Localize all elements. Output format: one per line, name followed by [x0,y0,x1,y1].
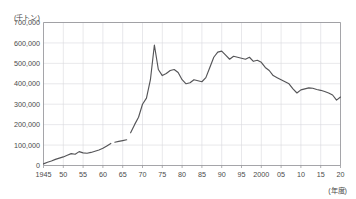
x-axis-tick-labels: 194550556065707580859095200005101520 [36,170,345,179]
y-tick-label: 400,000 [14,79,40,88]
y-tick-label: 200,000 [14,120,40,129]
y-tick-label: 100,000 [14,141,40,150]
y-tick-label: 500,000 [14,59,40,68]
x-tick-label: 85 [198,170,206,179]
x-tick-label: 75 [158,170,166,179]
gridlines [44,23,341,166]
x-tick-label: 1945 [36,170,52,179]
x-axis-unit-label: (年度) [328,186,347,195]
x-tick-label: 2000 [253,170,269,179]
x-tick-label: 70 [139,170,147,179]
chart-container: (千トン) 0100,000200,000300,000400,000500,0… [0,0,356,199]
y-tick-label: 300,000 [14,100,40,109]
chart-plot-svg: 0100,000200,000300,000400,000500,000600,… [0,0,356,199]
x-tick-label: 20 [337,170,345,179]
data-line-segment-1 [44,143,111,163]
y-tick-label: 700,000 [14,18,40,27]
plot-border [44,23,341,166]
x-tick-label: 05 [277,170,285,179]
x-tick-label: 10 [297,170,305,179]
x-tick-label: 65 [119,170,127,179]
x-tick-label: 95 [238,170,246,179]
y-tick-label: 600,000 [14,39,40,48]
x-tick-label: 80 [178,170,186,179]
x-tick-label: 90 [218,170,226,179]
x-tick-label: 55 [79,170,87,179]
x-tick-label: 15 [317,170,325,179]
y-axis-tick-labels: 0100,000200,000300,000400,000500,000600,… [14,18,40,170]
data-line-segment-2 [115,140,127,142]
plot-frame [44,23,341,169]
x-tick-label: 60 [99,170,107,179]
x-tick-label: 50 [59,170,67,179]
